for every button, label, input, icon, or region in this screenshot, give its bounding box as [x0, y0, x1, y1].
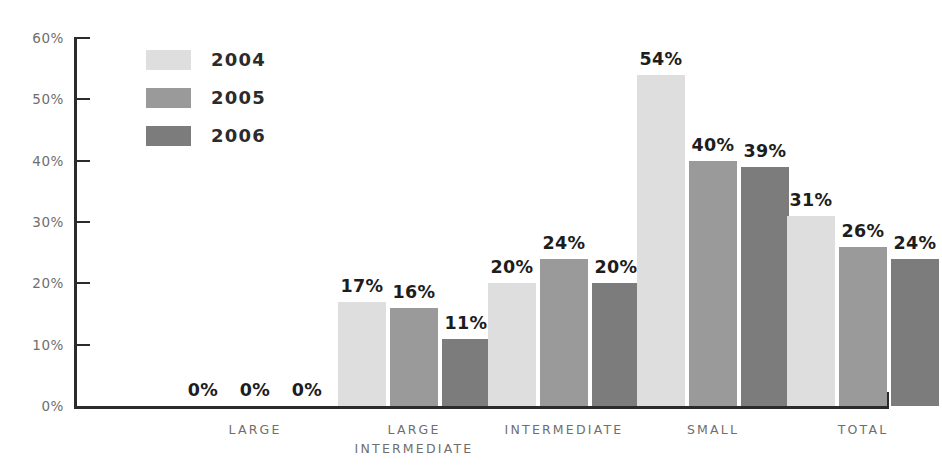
bar-value-label: 0% [240, 380, 271, 400]
category-label: SMALL [637, 420, 789, 439]
bar-group: 31%26%24% [787, 38, 939, 406]
bar-value-label: 0% [292, 380, 323, 400]
bar-value-label: 40% [691, 135, 734, 155]
bar-2005-intermediate: 24% [540, 38, 588, 406]
bar-value-label: 17% [340, 276, 383, 296]
bar-group: 0%0%0% [179, 38, 331, 406]
bar-rect [689, 161, 737, 406]
bar-rect [839, 247, 887, 406]
bar-2004-large-intermediate: 17% [338, 38, 386, 406]
bar-value-label: 31% [789, 190, 832, 210]
bar-value-label: 39% [743, 141, 786, 161]
category-label: TOTAL [787, 420, 939, 439]
bar-value-label: 0% [188, 380, 219, 400]
bar-2006-intermediate: 20% [592, 38, 640, 406]
bar-2004-total: 31% [787, 38, 835, 406]
bar-2006-large: 0% [283, 38, 331, 406]
bar-2005-total: 26% [839, 38, 887, 406]
bar-2005-small: 40% [689, 38, 737, 406]
bar-rect [637, 75, 685, 406]
bar-rect [787, 216, 835, 406]
bar-group: 17%16%11% [338, 38, 490, 406]
bar-rect [338, 302, 386, 406]
x-axis-line [74, 406, 889, 409]
bar-rect [488, 283, 536, 406]
bar-2004-large: 0% [179, 38, 227, 406]
bar-rect [592, 283, 640, 406]
bar-2004-intermediate: 20% [488, 38, 536, 406]
y-axis-tick-label: 20% [0, 275, 64, 291]
bar-value-label: 24% [542, 233, 585, 253]
bar-value-label: 20% [594, 257, 637, 277]
bar-value-label: 24% [893, 233, 936, 253]
bar-rect [540, 259, 588, 406]
y-axis-tick-label: 60% [0, 30, 64, 46]
bar-value-label: 16% [392, 282, 435, 302]
bar-rect [442, 339, 490, 406]
bar-2005-large-intermediate: 16% [390, 38, 438, 406]
bar-rect [891, 259, 939, 406]
category-label: LARGE INTERMEDIATE [338, 420, 490, 458]
bar-2006-total: 24% [891, 38, 939, 406]
bar-2005-large: 0% [231, 38, 279, 406]
y-axis-tick-label: 50% [0, 91, 64, 107]
plot-area: 0%0%0%17%16%11%20%24%20%54%40%39%31%26%2… [74, 38, 889, 406]
bar-rect [741, 167, 789, 406]
bar-group: 20%24%20% [488, 38, 640, 406]
bar-rect [390, 308, 438, 406]
bar-value-label: 26% [841, 221, 884, 241]
bar-2006-large-intermediate: 11% [442, 38, 490, 406]
category-label: LARGE [179, 420, 331, 439]
bar-value-label: 11% [444, 313, 487, 333]
category-label: INTERMEDIATE [488, 420, 640, 439]
bar-2006-small: 39% [741, 38, 789, 406]
bar-2004-small: 54% [637, 38, 685, 406]
y-axis-tick-label: 30% [0, 214, 64, 230]
y-axis-tick-label: 10% [0, 337, 64, 353]
bar-chart: 0%10%20%30%40%50%60% 200420052006 0%0%0%… [0, 0, 942, 468]
bar-value-label: 54% [639, 49, 682, 69]
y-axis-tick-label: 0% [0, 398, 64, 414]
bar-group: 54%40%39% [637, 38, 789, 406]
bar-value-label: 20% [490, 257, 533, 277]
y-axis-tick-label: 40% [0, 153, 64, 169]
